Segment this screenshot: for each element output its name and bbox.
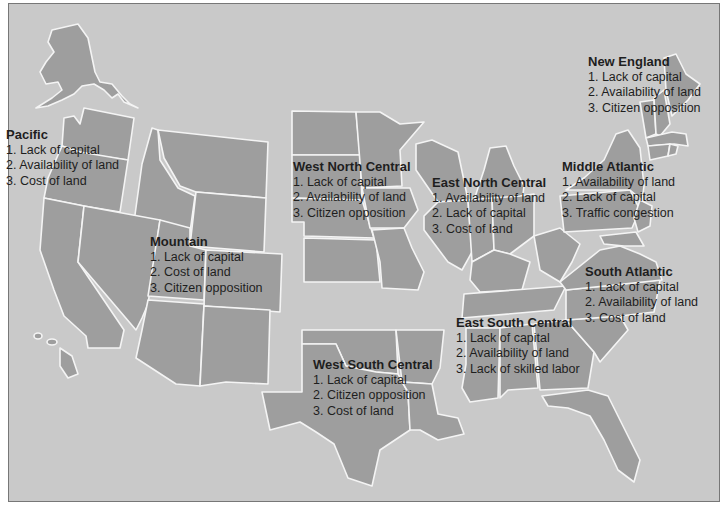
state-hawaii-island	[34, 333, 42, 339]
region-item: 2. Availability of land	[456, 346, 580, 362]
region-item: 3. Cost of land	[6, 174, 119, 190]
region-label-mountain: Mountain 1. Lack of capital 2. Cost of l…	[150, 234, 263, 296]
region-item: 2. Citizen opposition	[313, 388, 433, 404]
region-item: 3. Cost of land	[585, 311, 698, 327]
state-alaska	[36, 24, 138, 108]
region-item: 3. Lack of skilled labor	[456, 362, 580, 378]
region-item: 3. Cost of land	[432, 222, 546, 238]
region-title: Mountain	[150, 234, 263, 250]
region-item: 1. Lack of capital	[150, 250, 263, 266]
region-item: 3. Citizen opposition	[588, 101, 701, 117]
state-hawaii	[60, 348, 78, 378]
region-item: 1. Availability of land	[432, 191, 546, 207]
state-kansas	[304, 238, 380, 282]
region-item: 2. Cost of land	[150, 265, 263, 281]
region-item: 2. Lack of capital	[432, 206, 546, 222]
region-title: New England	[588, 54, 701, 70]
region-label-east-north-central: East North Central 1. Availability of la…	[432, 175, 546, 237]
region-label-west-north-central: West North Central 1. Lack of capital 2.…	[293, 159, 411, 221]
region-item: 3. Traffic congestion	[562, 206, 675, 222]
region-item: 1. Lack of capital	[6, 143, 119, 159]
region-title: West South Central	[313, 357, 433, 373]
region-item: 1. Lack of capital	[313, 373, 433, 389]
state-north-dakota	[292, 111, 360, 155]
state-arizona	[136, 300, 204, 386]
region-item: 2. Lack of capital	[562, 190, 675, 206]
state-maryland	[600, 232, 644, 246]
region-title: Pacific	[6, 127, 119, 143]
region-label-middle-atlantic: Middle Atlantic 1. Availability of land …	[562, 159, 675, 221]
state-rhode-island	[668, 144, 678, 156]
region-label-pacific: Pacific 1. Lack of capital 2. Availabili…	[6, 127, 119, 189]
region-label-new-england: New England 1. Lack of capital 2. Availa…	[588, 54, 701, 116]
region-item: 3. Citizen opposition	[150, 281, 263, 297]
region-item: 1. Availability of land	[562, 175, 675, 191]
state-tennessee	[462, 286, 566, 318]
region-item: 3. Cost of land	[313, 404, 433, 420]
state-florida	[542, 390, 640, 482]
region-label-south-atlantic: South Atlantic 1. Lack of capital 2. Ava…	[585, 264, 698, 326]
region-item: 2. Availability of land	[293, 190, 411, 206]
region-item: 1. Lack of capital	[588, 70, 701, 86]
region-label-east-south-central: East South Central 1. Lack of capital 2.…	[456, 315, 580, 377]
region-title: Middle Atlantic	[562, 159, 675, 175]
region-item: 2. Availability of land	[585, 295, 698, 311]
region-title: South Atlantic	[585, 264, 698, 280]
state-hawaii-island	[47, 339, 57, 345]
region-item: 1. Lack of capital	[456, 331, 580, 347]
region-item: 1. Lack of capital	[293, 175, 411, 191]
state-new-mexico	[200, 306, 270, 386]
region-title: East North Central	[432, 175, 546, 191]
region-title: West North Central	[293, 159, 411, 175]
region-title: East South Central	[456, 315, 580, 331]
region-item: 2. Availability of land	[588, 85, 701, 101]
region-item: 3. Citizen opposition	[293, 206, 411, 222]
region-label-west-south-central: West South Central 1. Lack of capital 2.…	[313, 357, 433, 419]
state-connecticut	[648, 144, 670, 160]
region-item: 2. Availability of land	[6, 158, 119, 174]
region-item: 1. Lack of capital	[585, 280, 698, 296]
